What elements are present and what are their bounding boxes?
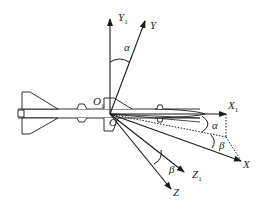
- label-beta-bottom: β: [169, 164, 174, 175]
- arc-alpha-right: [202, 116, 208, 132]
- label-y1: Y1: [118, 12, 128, 26]
- label-z: Z: [173, 187, 179, 198]
- coordinate-diagram: [0, 0, 264, 210]
- label-beta-right: β: [219, 140, 224, 151]
- arc-alpha-top: [110, 59, 129, 62]
- arc-beta-right: [211, 135, 214, 148]
- label-o1: O1: [93, 96, 104, 110]
- label-o: O: [109, 117, 117, 128]
- axis-y: [110, 21, 145, 114]
- label-alpha-right: α: [212, 120, 218, 131]
- angle-arcs: [110, 59, 214, 164]
- label-z1: Z1: [192, 169, 202, 183]
- label-x1: X1: [228, 100, 238, 114]
- arc-beta-bottom: [154, 150, 161, 164]
- label-alpha-top: α: [124, 42, 130, 53]
- label-y: Y: [150, 20, 156, 31]
- label-x: X: [243, 159, 250, 170]
